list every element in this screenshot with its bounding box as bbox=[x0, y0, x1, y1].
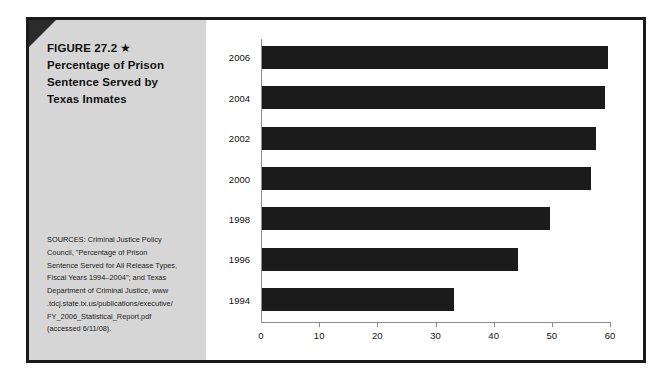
x-axis-tick bbox=[610, 322, 611, 327]
x-axis-tick-label: 20 bbox=[372, 330, 383, 341]
x-axis-tick-label: 60 bbox=[605, 330, 616, 341]
bar bbox=[262, 288, 454, 311]
figure-frame: FIGURE 27.2 ★ Percentage of Prison Sente… bbox=[26, 17, 646, 363]
figure-title-line-2: Percentage of Prison bbox=[47, 57, 195, 74]
y-axis-category-label: 2000 bbox=[229, 173, 250, 184]
x-axis-tick-label: 40 bbox=[488, 330, 499, 341]
figure-title: FIGURE 27.2 ★ Percentage of Prison Sente… bbox=[47, 40, 195, 107]
caption-panel: FIGURE 27.2 ★ Percentage of Prison Sente… bbox=[29, 20, 206, 360]
bar-row: 1998 bbox=[261, 207, 610, 230]
bar bbox=[262, 127, 596, 150]
figure-number-label: FIGURE 27.2 bbox=[47, 42, 117, 54]
sources-note: SOURCES: Criminal Justice Policy Council… bbox=[47, 234, 199, 336]
bar-row: 2004 bbox=[261, 86, 610, 109]
x-axis-tick bbox=[319, 322, 320, 327]
y-axis-category-label: 2006 bbox=[229, 52, 250, 63]
bar-row: 1994 bbox=[261, 288, 610, 311]
bar bbox=[262, 248, 518, 271]
sources-line: Fiscal Years 1994–2004"; and Texas bbox=[47, 272, 199, 285]
y-axis-category-label: 1998 bbox=[229, 213, 250, 224]
bar bbox=[262, 167, 591, 190]
y-axis-category-label: 2004 bbox=[229, 92, 250, 103]
sources-line: Sentence Served for All Release Types, bbox=[47, 260, 199, 273]
bar-row: 2006 bbox=[261, 46, 610, 69]
bar-row: 2002 bbox=[261, 127, 610, 150]
chart-area: 2006200420022000199819961994 01020304050… bbox=[206, 20, 643, 360]
bar-row: 2000 bbox=[261, 167, 610, 190]
sources-line: .tdcj.state.tx.us/publications/executive… bbox=[47, 298, 199, 311]
x-axis-tick-label: 10 bbox=[314, 330, 325, 341]
figure-title-line-1: FIGURE 27.2 ★ bbox=[47, 40, 195, 57]
bar bbox=[262, 86, 605, 109]
sources-line: Council, "Percentage of Prison bbox=[47, 247, 199, 260]
bar-row: 1996 bbox=[261, 248, 610, 271]
sources-line: (accessed 6/11/08). bbox=[47, 323, 199, 336]
x-axis-tick-label: 30 bbox=[430, 330, 441, 341]
bar bbox=[262, 46, 608, 69]
x-axis-tick bbox=[552, 322, 553, 327]
x-axis-tick-label: 50 bbox=[547, 330, 558, 341]
sources-line: Department of Criminal Justice, www bbox=[47, 285, 199, 298]
x-axis-tick bbox=[494, 322, 495, 327]
sources-line: SOURCES: Criminal Justice Policy bbox=[47, 234, 199, 247]
x-axis-tick-label: 0 bbox=[258, 330, 263, 341]
x-axis-tick bbox=[377, 322, 378, 327]
star-icon: ★ bbox=[120, 41, 131, 55]
bar bbox=[262, 207, 550, 230]
sources-line: FY_2006_Statistical_Report.pdf bbox=[47, 311, 199, 324]
bar-chart-plot: 2006200420022000199819961994 01020304050… bbox=[261, 39, 610, 322]
figure-title-line-3: Sentence Served by bbox=[47, 74, 195, 91]
x-axis-tick bbox=[436, 322, 437, 327]
y-axis-category-label: 2002 bbox=[229, 133, 250, 144]
y-axis-category-label: 1994 bbox=[229, 294, 250, 305]
y-axis-category-label: 1996 bbox=[229, 254, 250, 265]
figure-title-line-4: Texas Inmates bbox=[47, 91, 195, 108]
